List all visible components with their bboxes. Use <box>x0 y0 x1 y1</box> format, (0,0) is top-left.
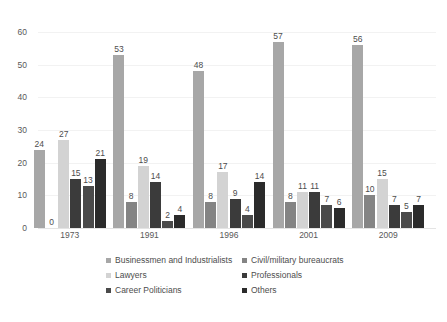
y-axis-tick-label: 40 <box>18 93 27 102</box>
bar[interactable] <box>162 221 173 228</box>
bar-slot[interactable]: 17 <box>217 32 228 228</box>
bar-slot[interactable]: 56 <box>352 32 363 228</box>
bar-slot[interactable]: 0 <box>46 32 57 228</box>
bar[interactable] <box>413 205 424 228</box>
bar[interactable] <box>285 202 296 228</box>
bar-slot[interactable]: 6 <box>334 32 345 228</box>
bar[interactable] <box>389 205 400 228</box>
gridline <box>38 228 436 229</box>
bar-slot[interactable]: 11 <box>309 32 320 228</box>
bar-slot[interactable]: 27 <box>58 32 69 228</box>
bar-slot[interactable]: 14 <box>150 32 161 228</box>
bar-slot[interactable]: 4 <box>174 32 185 228</box>
y-axis-tick-label: 60 <box>18 28 27 37</box>
bar[interactable] <box>352 45 363 228</box>
x-axis-tick-label: 1973 <box>60 231 79 240</box>
bar[interactable] <box>95 159 106 228</box>
legend-item-label: Civil/military bureaucrats <box>251 256 344 265</box>
bar[interactable] <box>34 150 45 228</box>
y-axis: 0102030405060 <box>0 32 34 228</box>
bar[interactable] <box>205 202 216 228</box>
bar-group-bars: 488179414 <box>193 32 265 228</box>
bar-group-bars: 561015757 <box>352 32 424 228</box>
bar-group-bars: 538191424 <box>113 32 185 228</box>
bar[interactable] <box>321 205 332 228</box>
bar-slot[interactable]: 10 <box>364 32 375 228</box>
bar-slot[interactable]: 7 <box>321 32 332 228</box>
bar-slot[interactable]: 4 <box>242 32 253 228</box>
y-axis-tick-label: 0 <box>22 224 27 233</box>
bar-slot[interactable]: 2 <box>162 32 173 228</box>
bar-value-label: 11 <box>298 182 307 191</box>
bar-value-label: 5 <box>404 202 409 211</box>
legend-item[interactable]: Career Politicians <box>106 286 242 295</box>
bar-slot[interactable]: 53 <box>113 32 124 228</box>
bar-slot[interactable]: 5 <box>401 32 412 228</box>
bar-slot[interactable]: 11 <box>297 32 308 228</box>
legend-item[interactable]: Others <box>242 286 366 295</box>
bar[interactable] <box>70 179 81 228</box>
bar-slot[interactable]: 7 <box>413 32 424 228</box>
bar-group: 578111176 <box>273 32 345 228</box>
bar-slot[interactable]: 57 <box>273 32 284 228</box>
bar-group-bars: 24027151321 <box>34 32 106 228</box>
bar[interactable] <box>58 140 69 228</box>
legend-swatch-icon <box>106 273 111 278</box>
bar[interactable] <box>126 202 137 228</box>
bar-value-label: 4 <box>177 205 182 214</box>
bar-value-label: 56 <box>353 35 362 44</box>
bar-slot[interactable]: 8 <box>285 32 296 228</box>
legend-item[interactable]: Professionals <box>242 271 366 280</box>
bar-value-label: 7 <box>416 195 421 204</box>
bar[interactable] <box>334 208 345 228</box>
legend-item-label: Career Politicians <box>115 286 182 295</box>
bar[interactable] <box>254 182 265 228</box>
legend-item[interactable]: Businessmen and Industrialists <box>106 256 242 265</box>
legend-item-label: Professionals <box>251 271 302 280</box>
bar[interactable] <box>297 192 308 228</box>
bar-value-label: 48 <box>194 61 203 70</box>
x-axis: 19731991199620012009 <box>38 231 436 247</box>
bar-slot[interactable]: 8 <box>126 32 137 228</box>
bar[interactable] <box>273 42 284 228</box>
bar-value-label: 8 <box>129 192 134 201</box>
bar-slot[interactable]: 8 <box>205 32 216 228</box>
bar[interactable] <box>217 172 228 228</box>
bar-group: 488179414 <box>193 32 265 228</box>
bar[interactable] <box>193 71 204 228</box>
bar-value-label: 17 <box>218 162 227 171</box>
bar-value-label: 15 <box>377 169 386 178</box>
bar-slot[interactable]: 48 <box>193 32 204 228</box>
bar[interactable] <box>174 215 185 228</box>
bar[interactable] <box>401 212 412 228</box>
bar[interactable] <box>230 199 241 228</box>
bar-slot[interactable]: 21 <box>95 32 106 228</box>
bar-slot[interactable]: 19 <box>138 32 149 228</box>
bar-slot[interactable]: 15 <box>377 32 388 228</box>
legend-swatch-icon <box>242 273 247 278</box>
bar-slot[interactable]: 13 <box>83 32 94 228</box>
bar[interactable] <box>150 182 161 228</box>
bar-value-label: 57 <box>273 32 282 41</box>
legend-item[interactable]: Civil/military bureaucrats <box>242 256 366 265</box>
bar-value-label: 13 <box>83 176 92 185</box>
bar[interactable] <box>309 192 320 228</box>
bar-slot[interactable]: 24 <box>34 32 45 228</box>
bar-value-label: 10 <box>365 185 374 194</box>
legend-item[interactable]: Lawyers <box>106 271 242 280</box>
y-axis-tick-label: 50 <box>18 60 27 69</box>
bar-group: 538191424 <box>113 32 185 228</box>
bar-value-label: 27 <box>59 130 68 139</box>
bar[interactable] <box>113 55 124 228</box>
bar-slot[interactable]: 7 <box>389 32 400 228</box>
bar[interactable] <box>364 195 375 228</box>
bar-slot[interactable]: 14 <box>254 32 265 228</box>
bar-slot[interactable]: 15 <box>70 32 81 228</box>
bar[interactable] <box>83 186 94 228</box>
bar[interactable] <box>377 179 388 228</box>
bar-slot[interactable]: 9 <box>230 32 241 228</box>
bar[interactable] <box>242 215 253 228</box>
bar[interactable] <box>138 166 149 228</box>
legend-swatch-icon <box>106 258 111 263</box>
legend-swatch-icon <box>106 288 111 293</box>
